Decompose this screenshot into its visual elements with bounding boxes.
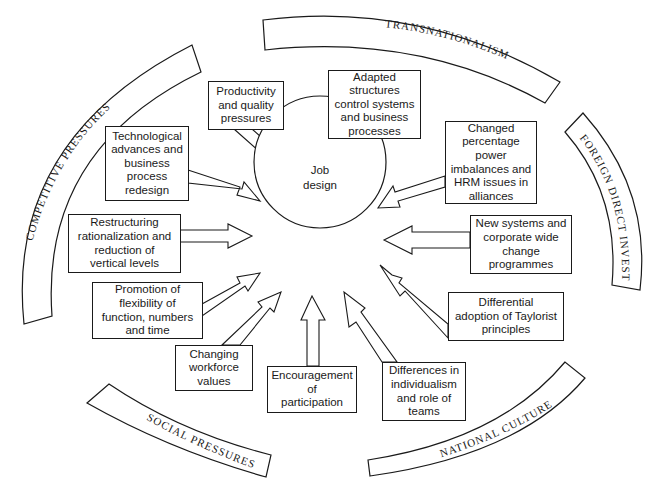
arrow-differences bbox=[344, 292, 397, 362]
box-encouragement-of-participation: Encouragement of participation bbox=[267, 366, 357, 413]
arrow-technological bbox=[188, 170, 260, 201]
box-adapted-structures: Adapted structures control systems and b… bbox=[328, 70, 421, 139]
box-technological-advances: Technological advances and business proc… bbox=[105, 126, 189, 201]
arrow-new-systems bbox=[384, 226, 470, 254]
box-new-systems: New systems and corporate wide change pr… bbox=[470, 215, 572, 274]
box-differential-adoption: Differential adoption of Taylorist princ… bbox=[448, 292, 564, 341]
box-restructuring: Restructuring rationalization and reduct… bbox=[68, 214, 181, 273]
arrow-changing-workforce bbox=[222, 292, 281, 345]
arrow-differential bbox=[380, 265, 448, 338]
box-promotion-of-flexibility: Promotion of flexibility of function, nu… bbox=[92, 282, 203, 339]
arrow-promotion bbox=[202, 273, 260, 316]
arrow-encouragement bbox=[301, 296, 325, 366]
social-pressures-band: SOCIAL PRESSURES bbox=[87, 384, 271, 477]
box-changed-percentage: Changed percentage power imbalances and … bbox=[445, 121, 537, 204]
box-productivity: Productivity and quality pressures bbox=[208, 81, 284, 130]
job-design-label: Job design bbox=[285, 163, 355, 193]
arrow-restructuring bbox=[180, 224, 252, 248]
box-changing-workforce-values: Changing workforce values bbox=[175, 345, 253, 391]
box-differences-in-individualism: Differences in individualism and role of… bbox=[382, 362, 466, 421]
arrow-changed bbox=[378, 176, 445, 208]
